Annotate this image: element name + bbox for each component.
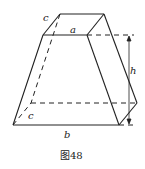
label-a: a — [70, 25, 76, 35]
right-back-lateral-edge — [104, 14, 137, 103]
right-front-lateral-edge — [87, 35, 119, 125]
label-b: b — [64, 130, 70, 140]
label-c-bottom: c — [28, 111, 34, 121]
figure-caption: 图48 — [60, 151, 83, 161]
frustum-diagram: c a h c b 图48 — [0, 0, 145, 169]
arrow-down-icon — [127, 119, 131, 124]
arrow-up-icon — [127, 36, 131, 41]
label-h: h — [130, 66, 136, 76]
top-right-depth-edge — [87, 14, 104, 35]
label-c-top: c — [43, 13, 49, 23]
